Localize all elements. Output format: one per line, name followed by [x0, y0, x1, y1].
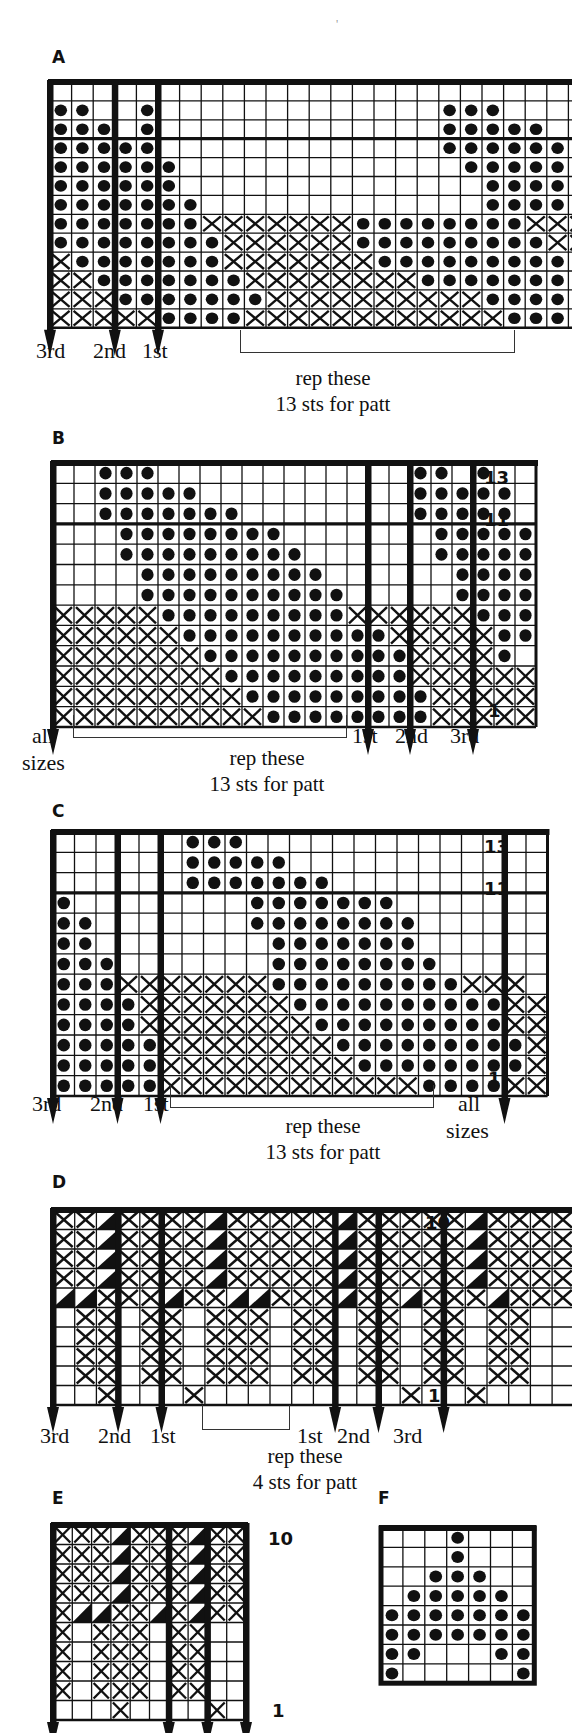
dot-symbol — [429, 1590, 442, 1602]
dot-symbol — [407, 1648, 420, 1660]
dot-symbol — [473, 1629, 486, 1641]
dot-symbol — [429, 1609, 442, 1621]
dot-symbol — [517, 1648, 530, 1660]
dot-symbol — [517, 1667, 530, 1679]
dot-symbol — [495, 1609, 508, 1621]
dot-symbol — [429, 1570, 442, 1582]
dot-symbol — [407, 1590, 420, 1602]
dot-symbol — [451, 1551, 464, 1563]
dot-symbol — [495, 1590, 508, 1602]
dot-symbol — [473, 1570, 486, 1582]
dot-symbol — [407, 1609, 420, 1621]
dot-symbol — [386, 1609, 399, 1621]
dot-symbol — [517, 1609, 530, 1621]
dot-symbol — [407, 1629, 420, 1641]
dot-symbol — [451, 1629, 464, 1641]
dot-symbol — [451, 1570, 464, 1582]
dot-symbol — [451, 1590, 464, 1602]
dot-symbol — [429, 1629, 442, 1641]
dot-symbol — [473, 1590, 486, 1602]
dot-symbol — [451, 1609, 464, 1621]
dot-symbol — [386, 1667, 399, 1679]
dot-symbol — [473, 1609, 486, 1621]
chart-grid-f — [0, 0, 572, 1733]
dot-symbol — [495, 1629, 508, 1641]
dot-symbol — [495, 1648, 508, 1660]
dot-symbol — [451, 1532, 464, 1544]
dot-symbol — [517, 1629, 530, 1641]
dot-symbol — [386, 1648, 399, 1660]
dot-symbol — [386, 1629, 399, 1641]
